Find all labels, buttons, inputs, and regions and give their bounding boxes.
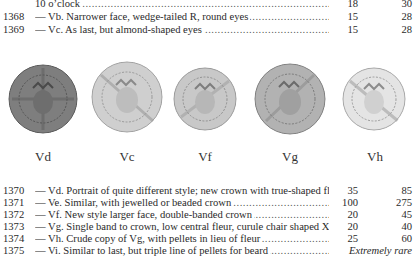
- coin-image-vh: [342, 67, 406, 131]
- catalogue-entry-1375: 1375 ...................................…: [0, 244, 415, 257]
- entry-text: — Vc. As last, but almond-shaped eyes: [35, 24, 204, 35]
- entry-number: 1368: [3, 10, 31, 23]
- coin-image-vg: [254, 63, 326, 135]
- entry-text: — Vb. Narrower face, wedge-tailed R, rou…: [35, 11, 250, 22]
- coin-label-vd: Vd: [23, 150, 63, 164]
- entry-value-fine: 15: [328, 10, 358, 23]
- catalogue-entry-1369: 1369 ...................................…: [0, 23, 415, 36]
- entry-description: ........................................…: [35, 23, 329, 36]
- entry-description: — Vd. Portrait of quite different style;…: [35, 184, 329, 197]
- catalogue-entry-1368: 1368 ...................................…: [0, 10, 415, 23]
- coin-label-vg: Vg: [270, 150, 310, 164]
- coin-label-vc: Vc: [107, 150, 147, 164]
- entry-text: — Vf. New style larger face, double-band…: [35, 209, 254, 220]
- entry-value-fine: 15: [328, 23, 358, 36]
- coin-label-vf: Vf: [185, 150, 225, 164]
- entry-value-vf: 30: [382, 0, 412, 10]
- coin-image-vc: [91, 61, 163, 133]
- entry-text: — Vh. Crude copy of Vg, with pellets in …: [35, 233, 262, 244]
- entry-value-fine: 18: [328, 0, 358, 10]
- entry-description: ........................................…: [35, 0, 329, 10]
- coin-image-vd: [8, 64, 78, 134]
- entry-text: — Vi. Similar to last, but triple line o…: [35, 245, 270, 256]
- entry-description: — Vg. Single band to crown, low central …: [35, 220, 329, 233]
- entry-text: — Ve. Similar, with jewelled or beaded c…: [35, 197, 233, 208]
- entry-description: ........................................…: [35, 244, 329, 257]
- entry-text: — Vd. Portrait of quite different style;…: [35, 185, 329, 196]
- entry-value-vf: 28: [382, 10, 412, 23]
- entry-description: ........................................…: [35, 10, 329, 23]
- entry-number: 1369: [3, 23, 31, 36]
- entry-text: — Vg. Single band to crown, low central …: [35, 221, 329, 232]
- entry-number: 1375: [3, 244, 31, 257]
- entry-rarity: Extremely rare: [322, 244, 412, 257]
- coin-label-vh: Vh: [355, 150, 395, 164]
- coin-image-vf: [173, 67, 237, 131]
- entry-value-vf: 28: [382, 23, 412, 36]
- entry-text: 10 o’clock: [35, 0, 82, 9]
- catalogue-entry-continued: ........................................…: [0, 0, 415, 10]
